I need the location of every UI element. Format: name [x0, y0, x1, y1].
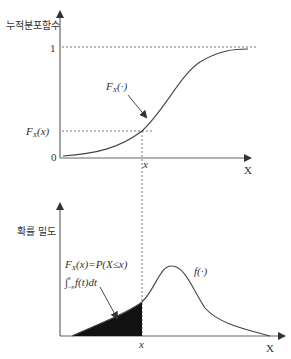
cdf-curve — [63, 49, 248, 156]
pdf-chart: 확률 밀도 FX(x)=P(X≤x) ∫x−∞f(t)dt f(·) x X — [17, 204, 284, 354]
cdf-curve-label: FX(·) — [105, 80, 127, 94]
cdf-curve-pointer — [128, 95, 146, 117]
cdf-tick-one: 1 — [50, 42, 56, 54]
cdf-x-label: X — [244, 164, 252, 176]
pdf-formula-integral: ∫x−∞f(t)dt — [64, 275, 98, 290]
pdf-area-pointer — [100, 287, 117, 318]
pdf-curve-label: f(·) — [194, 265, 207, 278]
cdf-y-label: 누적분포함수 — [6, 20, 60, 31]
cdf-fx-label: FX(x) — [25, 125, 50, 139]
cdf-tick-zero: 0 — [51, 151, 57, 163]
cdf-x-marker: x — [142, 158, 148, 170]
pdf-x-marker: x — [138, 338, 144, 350]
pdf-x-label: X — [266, 342, 274, 354]
pdf-y-label: 확률 밀도 — [17, 226, 56, 237]
cdf-pdf-diagram: 누적분포함수 1 0 FX(x) FX(·) x X 확률 밀도 FX(x)=P… — [0, 0, 291, 359]
pdf-formula-cdf: FX(x)=P(X≤x) — [64, 258, 128, 272]
cdf-chart: 누적분포함수 1 0 FX(x) FX(·) x X — [6, 12, 256, 336]
